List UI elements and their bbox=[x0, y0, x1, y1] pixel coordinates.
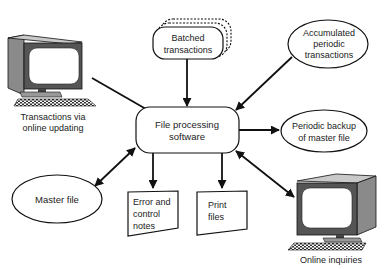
accumulated-label-line-2: periodic bbox=[313, 39, 345, 49]
batched-label-line-1: Batched bbox=[171, 33, 204, 43]
accumulated-label-line-3: transactions bbox=[305, 50, 354, 60]
backup-label-line-2: of master file bbox=[298, 133, 350, 143]
print-files-label-line-1: Print bbox=[208, 200, 227, 210]
accumulated-label-line-1: Accumulated bbox=[303, 28, 355, 38]
edge-accumulated-to-center bbox=[236, 57, 292, 110]
node-print-files: Print files bbox=[197, 191, 247, 235]
node-periodic-backup: Periodic backup of master file bbox=[281, 110, 367, 152]
error-notes-label-line-1: Error and bbox=[133, 197, 171, 207]
edge-master-center bbox=[95, 148, 135, 186]
batched-label-line-2: transactions bbox=[164, 45, 213, 55]
node-error-control-notes: Error and control notes bbox=[128, 191, 178, 236]
node-accumulated-periodic-transactions: Accumulated periodic transactions bbox=[288, 20, 368, 68]
edge-center-online-inquiries bbox=[236, 151, 294, 197]
error-notes-label-line-2: control bbox=[133, 209, 160, 219]
error-notes-label-line-3: notes bbox=[133, 221, 156, 231]
master-file-label: Master file bbox=[35, 194, 79, 205]
file-processing-diagram: File processing software Transactions vi… bbox=[0, 0, 388, 269]
online-updating-label-line-1: Transactions via bbox=[20, 112, 85, 122]
computer-terminal-icon bbox=[8, 35, 96, 106]
computer-terminal-icon bbox=[288, 174, 376, 250]
node-online-inquiries: Online inquiries bbox=[288, 174, 376, 265]
center-label-line-1: File processing bbox=[155, 119, 219, 130]
backup-label-line-1: Periodic backup bbox=[292, 121, 356, 131]
center-label-line-2: software bbox=[169, 131, 205, 142]
node-online-updating: Transactions via online updating bbox=[8, 35, 96, 133]
node-master-file: Master file bbox=[12, 175, 102, 223]
online-inquiries-label: Online inquiries bbox=[300, 255, 363, 265]
node-batched-transactions: Batched transactions bbox=[153, 19, 231, 59]
print-files-label-line-2: files bbox=[208, 212, 225, 222]
node-file-processing-software: File processing software bbox=[136, 107, 239, 153]
online-updating-label-line-2: online updating bbox=[22, 123, 83, 133]
